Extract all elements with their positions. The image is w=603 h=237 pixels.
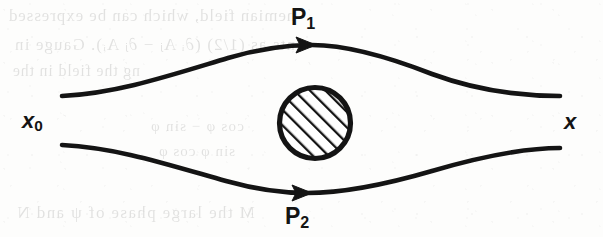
label-x0-subscript: 0 [34, 117, 43, 134]
label-path-p2: P2 [285, 205, 309, 230]
path-diagram-svg [0, 0, 603, 237]
obstacle-group [280, 88, 351, 159]
label-p2-subscript: 2 [300, 213, 309, 231]
label-x0-base: x [22, 108, 34, 133]
label-x-base: x [564, 109, 576, 134]
hatched-obstacle-circle [280, 88, 351, 159]
label-path-p1: P1 [291, 6, 315, 31]
label-p1-base: P [291, 4, 306, 30]
label-end-point-x: x [564, 111, 576, 133]
figure-canvas: hemian field, which can be expressed ent… [0, 0, 603, 237]
label-start-point-x0: x0 [22, 110, 43, 134]
label-p1-subscript: 1 [306, 14, 315, 32]
label-p2-base: P [285, 203, 300, 229]
